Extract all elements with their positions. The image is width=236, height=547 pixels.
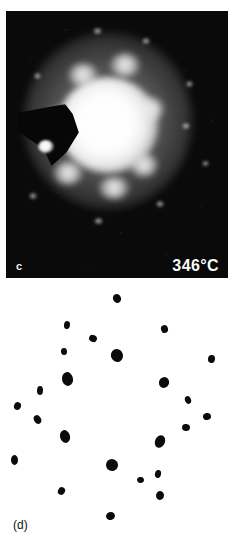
halo-diffraction-spot bbox=[53, 161, 83, 185]
diffraction-figure: c 346°C (d) bbox=[0, 0, 236, 547]
diffraction-spot bbox=[136, 476, 144, 483]
diffraction-spot bbox=[156, 490, 165, 500]
faint-diffraction-spot bbox=[156, 201, 164, 207]
diffraction-spot bbox=[56, 486, 66, 496]
panel-c-label: c bbox=[16, 261, 22, 272]
diffraction-spot bbox=[12, 401, 21, 411]
temperature-label: 346°C bbox=[172, 258, 219, 274]
faint-diffraction-spot bbox=[94, 218, 103, 224]
diffraction-spot bbox=[203, 412, 212, 420]
panel-d-label: (d) bbox=[13, 519, 28, 531]
diffraction-spot bbox=[109, 347, 125, 364]
diffraction-spot bbox=[104, 511, 115, 521]
panel-d-schematic-spot-map: (d) bbox=[0, 283, 236, 547]
diffraction-spot bbox=[88, 333, 98, 342]
halo-diffraction-spot bbox=[110, 53, 140, 77]
faint-diffraction-spot bbox=[142, 38, 150, 44]
faint-diffraction-spot bbox=[202, 161, 209, 166]
panel-c-diffraction-photograph: c 346°C bbox=[6, 11, 228, 278]
faint-diffraction-spot bbox=[93, 28, 102, 34]
diffraction-spot bbox=[64, 321, 71, 330]
diffraction-spot bbox=[61, 347, 67, 354]
diffraction-spot bbox=[111, 292, 122, 304]
diffraction-spot bbox=[182, 423, 191, 431]
halo-diffraction-spot bbox=[98, 177, 130, 199]
diffraction-spot bbox=[60, 371, 73, 387]
beam-stop-bright-reflection bbox=[38, 140, 54, 153]
diffraction-spot bbox=[37, 385, 43, 394]
diffraction-spot bbox=[157, 375, 171, 389]
diffraction-spot bbox=[104, 457, 120, 473]
diffraction-spot bbox=[184, 395, 192, 405]
diffraction-spot bbox=[32, 413, 42, 424]
faint-diffraction-spot bbox=[34, 73, 41, 79]
faint-diffraction-spot bbox=[182, 123, 190, 129]
faint-diffraction-spot bbox=[29, 193, 37, 199]
diffraction-spot bbox=[160, 324, 169, 334]
diffraction-spot bbox=[153, 433, 167, 449]
diffraction-spot bbox=[154, 469, 162, 478]
diffraction-spot bbox=[207, 354, 216, 363]
diffraction-spot bbox=[10, 455, 17, 465]
faint-diffraction-spot bbox=[186, 81, 193, 87]
diffraction-spot bbox=[58, 428, 71, 443]
